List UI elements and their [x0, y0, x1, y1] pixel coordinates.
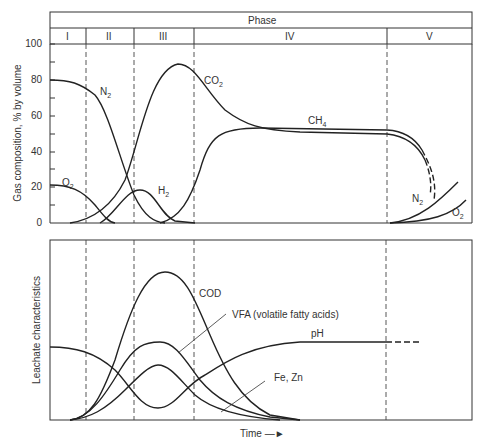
n2-late-label: N2: [412, 193, 423, 206]
h2-curve: [100, 190, 195, 223]
ytick-20: 20: [31, 181, 43, 192]
y-axis-title-leachate: Leachate characteristics: [31, 276, 42, 384]
phase-1-label: I: [66, 31, 69, 42]
co2-label: CO2: [204, 75, 223, 88]
ch4-label: CH4: [308, 115, 326, 128]
phase-2-label: II: [106, 31, 112, 42]
ph-label: pH: [311, 328, 324, 339]
o2-curve: [50, 185, 115, 223]
vfa-curve: [70, 342, 300, 420]
ytick-80: 80: [31, 74, 43, 85]
x-axis-title-time: Time —►: [240, 428, 285, 439]
cod-curve: [70, 272, 300, 420]
phase-3-label: III: [159, 31, 167, 42]
h2-label: H2: [158, 185, 169, 198]
ch4-curve: [160, 128, 422, 223]
leachate-curves: [50, 272, 422, 420]
phase-header: Phase I II III IV V: [50, 12, 472, 44]
phase-4-label: IV: [285, 31, 295, 42]
fe-zn-label: Fe, Zn: [274, 372, 303, 383]
o2-late-label: O2: [452, 207, 464, 220]
phase-title: Phase: [248, 15, 277, 26]
co2-curve-dashed: [425, 160, 431, 195]
phase-dividers-bottom: [86, 240, 386, 420]
vfa-label: VFA (volatile fatty acids): [232, 309, 339, 320]
leachate-gas-chart: Phase I II III IV V 100: [0, 0, 482, 447]
y-axis-ticks: [50, 44, 55, 205]
ytick-0: 0: [36, 217, 42, 228]
gas-composition-chart: 100 80 60 40 20 0 Gas composition, % by …: [12, 38, 472, 228]
phase-5-label: V: [426, 31, 433, 42]
o2-label: O2: [62, 177, 74, 190]
label-leaders: [178, 314, 265, 412]
n2-label: N2: [100, 86, 111, 99]
cod-label: COD: [199, 288, 221, 299]
ytick-100: 100: [25, 38, 42, 49]
ytick-60: 60: [31, 110, 43, 121]
n2-curve: [50, 80, 165, 223]
y-axis-title-gas: Gas composition, % by volume: [12, 64, 23, 202]
gas-curves: [50, 64, 466, 223]
ytick-40: 40: [31, 146, 43, 157]
n2-late-curve: [390, 182, 458, 223]
leachate-chart: Leachate characteristics COD VFA (volati…: [31, 240, 472, 439]
